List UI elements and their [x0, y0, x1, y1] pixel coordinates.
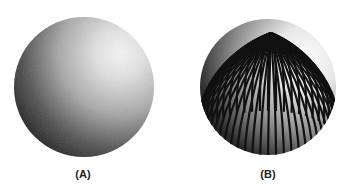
sphere-a [14, 17, 154, 157]
figure-canvas [0, 0, 355, 193]
label-b: (B) [248, 168, 288, 180]
sphere-b [196, 19, 340, 179]
label-a: (A) [63, 168, 103, 180]
